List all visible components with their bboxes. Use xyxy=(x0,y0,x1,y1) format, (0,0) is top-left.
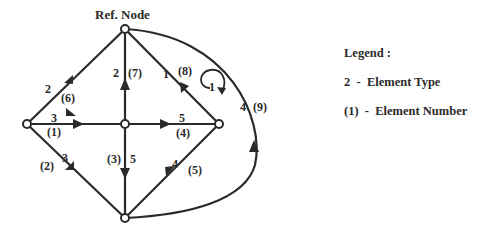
loop-label: 1 xyxy=(209,80,215,94)
node-left xyxy=(23,120,31,128)
edge-7-type: 2 xyxy=(113,66,119,80)
edge-2-type: 3 xyxy=(62,151,68,165)
node-center xyxy=(121,120,129,128)
edge-9-number: (9) xyxy=(253,100,267,114)
legend-item-element-type: 2 - Element Type xyxy=(344,75,467,90)
edge-8-type: 1 xyxy=(163,67,169,81)
edge-6 xyxy=(27,29,125,124)
arrow-icon xyxy=(66,108,76,116)
edge-4-number: (4) xyxy=(176,126,190,140)
edge-2-number: (2) xyxy=(40,159,54,173)
arrow-icon xyxy=(64,75,73,84)
edge-4-type: 5 xyxy=(179,111,185,125)
arrow-icon xyxy=(73,119,84,129)
edge-5 xyxy=(125,124,219,218)
edge-6-type: 2 xyxy=(45,82,51,96)
edge-7-number: (7) xyxy=(128,66,142,80)
edge-3-type: 5 xyxy=(130,152,136,166)
edge-3-number: (3) xyxy=(107,152,121,166)
edge-5-number: (5) xyxy=(188,163,202,177)
edge-1-number: (1) xyxy=(47,125,61,139)
node-bottom xyxy=(121,214,129,222)
arrow-icon xyxy=(120,168,130,179)
legend-title: Legend : xyxy=(344,46,467,61)
edge-6-number: (6) xyxy=(61,91,75,105)
loop-arrowhead-icon xyxy=(217,87,226,95)
edge-1-type: 3 xyxy=(51,111,57,125)
ref-node-title: Ref. Node xyxy=(95,7,150,22)
edge-8-number: (8) xyxy=(178,64,192,78)
legend: Legend : 2 - Element Type (1) - Element … xyxy=(344,46,467,133)
node-ref xyxy=(121,25,129,33)
arrow-icon xyxy=(160,119,171,129)
legend-item-element-number: (1) - Element Number xyxy=(344,104,467,119)
edge-5-type: 4 xyxy=(172,157,178,171)
edge-9-type: 4 xyxy=(240,100,246,114)
node-right xyxy=(215,120,223,128)
